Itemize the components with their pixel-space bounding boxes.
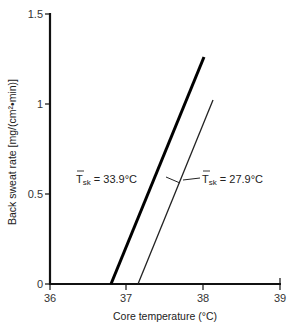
x-axis-label: Core temperature (°C): [113, 310, 217, 322]
y-tick-label: 0: [37, 278, 43, 290]
y-axis-label: Back sweat rate [mg/(cm²•min)]: [6, 79, 18, 225]
series: [111, 57, 213, 284]
y-ticks: 1.5 1 0.5 0: [28, 8, 50, 290]
y-tick-label: 1.5: [28, 8, 43, 20]
series-line-33-9: [111, 57, 204, 284]
annotation-leader: [166, 177, 180, 183]
annotation-27-9: Tsk = 27.9°C: [202, 171, 263, 187]
x-tick-label: 39: [274, 292, 286, 304]
y-tick-label: 0.5: [28, 188, 43, 200]
x-tick-label: 36: [44, 292, 56, 304]
x-tick-label: 37: [120, 292, 132, 304]
y-tick-label: 1: [37, 98, 43, 110]
x-ticks: 36 37 38 39: [44, 278, 286, 304]
chart: 1.5 1 0.5 0 36 37 38 39 Core temperature…: [0, 0, 294, 325]
svg-text:Tsk = 27.9°C: Tsk = 27.9°C: [202, 173, 263, 187]
x-tick-label: 38: [197, 292, 209, 304]
svg-text:Tsk = 33.9°C: Tsk = 33.9°C: [76, 173, 137, 187]
annotation-33-9: Tsk = 33.9°C: [76, 171, 137, 187]
annotation-leader: [183, 178, 200, 180]
